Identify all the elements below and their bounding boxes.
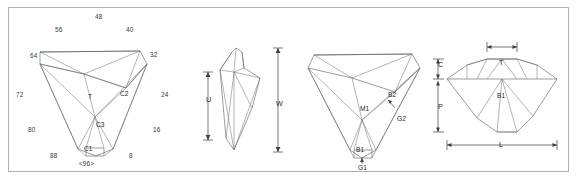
facet-label-b1-pavilion: B1 (356, 147, 364, 154)
diagram-canvas: 48 56 40 64 32 72 24 80 16 88 8 T C2 C3 … (0, 0, 578, 187)
panel-pavilion-view (300, 0, 430, 187)
facet-label-m1: M1 (360, 106, 369, 113)
index-label-88: 88 (50, 153, 57, 159)
index-label-32: 32 (150, 52, 157, 58)
facet-label-c2: C2 (120, 91, 129, 98)
facet-label-b2: B2 (388, 92, 396, 99)
index-label-56: 56 (55, 27, 62, 33)
panel-crown-index-view (0, 0, 200, 187)
dimension-label-p: P (438, 103, 443, 110)
index-label-8: 8 (129, 153, 133, 159)
index-label-24: 24 (161, 92, 168, 98)
facet-label-c1: C1 (84, 146, 93, 153)
index-label-64: 64 (30, 53, 37, 59)
index-label-40: 40 (126, 27, 133, 33)
facet-label-b1-profile: B1 (497, 93, 505, 100)
index-label-80: 80 (28, 127, 35, 133)
dimension-label-l: L (499, 141, 503, 148)
facet-label-c3: C3 (96, 122, 105, 129)
facet-label-t: T (88, 94, 92, 101)
facet-label-g2: G2 (397, 116, 406, 123)
index-label-72: 72 (16, 92, 23, 98)
dimension-label-t: T (499, 59, 504, 66)
index-label-16: 16 (153, 127, 160, 133)
index-label-48: 48 (95, 14, 102, 20)
dimension-label-u: U (206, 96, 211, 103)
facet-label-g1: G1 (358, 165, 367, 172)
dimension-label-w: W (276, 100, 283, 107)
crown-bottom-index-label: <96> (79, 161, 94, 167)
panel-girdle-profile-view (190, 0, 300, 187)
dimension-label-c: C (438, 61, 443, 68)
